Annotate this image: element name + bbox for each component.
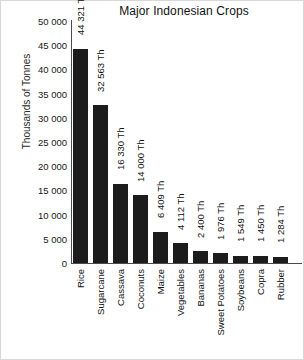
bar-rect[interactable] (113, 184, 128, 263)
y-tick-label: 40 000 (5, 64, 67, 75)
x-label-slot: Sweet Potatoes (211, 267, 231, 359)
x-category-label: Bananas (196, 269, 206, 307)
bar-value-label: 1 450 Th (256, 205, 266, 242)
bar-group[interactable]: 4 112 Th (171, 21, 191, 263)
x-label-slot: Cassava (111, 267, 131, 359)
bar-rect[interactable] (153, 232, 168, 263)
x-category-label: Rubber (276, 269, 286, 300)
y-tick-label: 15 000 (5, 185, 67, 196)
bar-group[interactable]: 44 321 Th (71, 21, 91, 263)
y-tick-label: 50 000 (5, 16, 67, 27)
bar-rect[interactable] (253, 256, 268, 263)
bar-value-label: 14 000 Th (136, 139, 146, 182)
x-label-slot: Rice (71, 267, 91, 359)
bar-value-label: 16 330 Th (116, 128, 126, 171)
bar-group[interactable]: 1 450 Th (251, 21, 271, 263)
bar-group[interactable]: 1 976 Th (211, 21, 231, 263)
x-label-slot: Soybeans (231, 267, 251, 359)
plot-area: 44 321 Th32 563 Th16 330 Th14 000 Th6 40… (71, 21, 302, 263)
x-category-label: Sweet Potatoes (216, 269, 226, 336)
x-category-label: Cassava (116, 269, 126, 306)
bar-group[interactable]: 1 549 Th (231, 21, 251, 263)
x-axis-line (71, 263, 302, 264)
x-category-label: Rice (76, 269, 86, 288)
bar-group[interactable]: 6 409 Th (151, 21, 171, 263)
y-tick-label: 5 000 (5, 233, 67, 244)
bar-rect[interactable] (193, 251, 208, 263)
y-axis-tick-labels: 50 00045 00040 00035 00030 00025 00020 0… (1, 1, 67, 360)
bar-group[interactable]: 2 400 Th (191, 21, 211, 263)
x-label-slot: Copra (251, 267, 271, 359)
bar-value-label: 32 563 Th (96, 49, 106, 92)
y-tick-label: 0 (5, 258, 67, 269)
bar-value-label: 1 976 Th (216, 203, 226, 240)
y-tick-label: 10 000 (5, 209, 67, 220)
chart-title: Major Indonesian Crops (79, 4, 289, 18)
bar-chart-figure: Major Indonesian Crops Thousands of Tonn… (0, 0, 304, 360)
x-label-slot: Sugarcane (91, 267, 111, 359)
bar-value-label: 1 284 Th (276, 206, 286, 243)
bar-rect[interactable] (273, 257, 288, 263)
bar-group[interactable]: 16 330 Th (111, 21, 131, 263)
y-tick-label: 45 000 (5, 40, 67, 51)
x-label-slot: Vegetables (171, 267, 191, 359)
x-category-label: Coconuts (136, 269, 146, 309)
x-category-label: Sugarcane (96, 269, 106, 315)
x-label-slot: Maize (151, 267, 171, 359)
bar-group[interactable]: 1 284 Th (271, 21, 291, 263)
bar-value-label: 2 400 Th (196, 201, 206, 238)
bar-value-label: 6 409 Th (156, 181, 166, 218)
bar-value-label: 44 321 Th (76, 0, 86, 35)
y-tick-label: 20 000 (5, 161, 67, 172)
x-axis-category-labels: RiceSugarcaneCassavaCoconutsMaizeVegetab… (71, 267, 302, 359)
bar-group[interactable]: 32 563 Th (91, 21, 111, 263)
x-category-label: Copra (256, 269, 266, 295)
bar-rect[interactable] (73, 49, 88, 264)
x-category-label: Vegetables (176, 269, 186, 316)
bar-group[interactable]: 14 000 Th (131, 21, 151, 263)
x-label-slot: Coconuts (131, 267, 151, 359)
bar-rect[interactable] (93, 105, 108, 263)
bar-rect[interactable] (173, 243, 188, 263)
bar-value-label: 1 549 Th (236, 205, 246, 242)
x-category-label: Soybeans (236, 269, 246, 311)
bar-rect[interactable] (213, 253, 228, 263)
bar-rect[interactable] (233, 256, 248, 263)
y-tick-label: 25 000 (5, 137, 67, 148)
y-tick-label: 35 000 (5, 88, 67, 99)
x-label-slot: Bananas (191, 267, 211, 359)
x-label-slot: Rubber (271, 267, 291, 359)
bar-rect[interactable] (133, 195, 148, 263)
x-category-label: Maize (156, 269, 166, 294)
y-tick-label: 30 000 (5, 112, 67, 123)
bar-value-label: 4 112 Th (176, 193, 186, 230)
